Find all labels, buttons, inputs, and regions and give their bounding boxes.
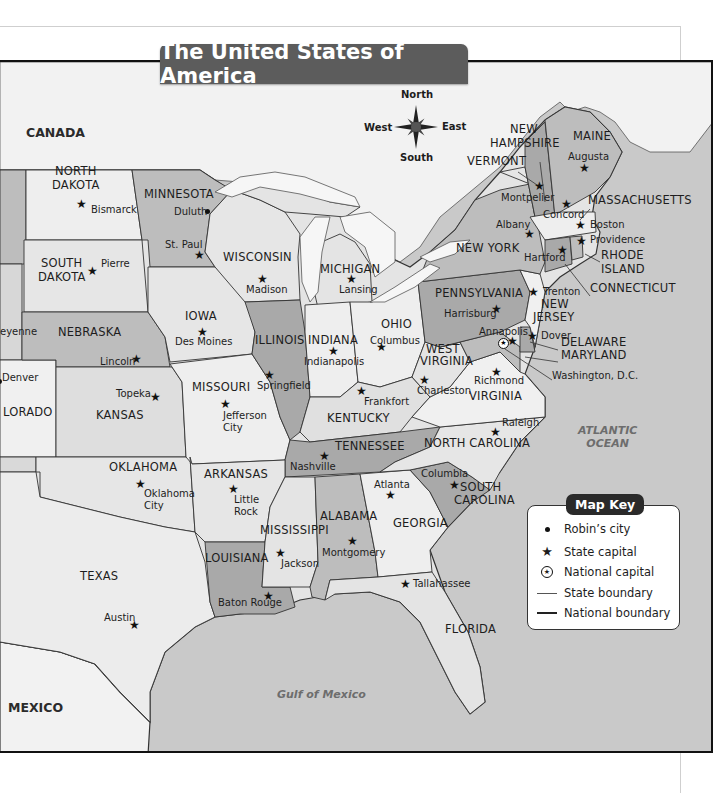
state-capital-star-icon: ★ [575,219,586,231]
state-label: ARKANSAS [204,469,268,481]
state-capital-star-icon: ★ [220,398,231,410]
city-label: City [144,501,164,511]
compass-south: South [400,152,433,163]
state-label: MASSACHUSETTS [588,195,692,207]
state-capital-star-icon: ★ [129,619,140,631]
state-label: IOWA [185,311,217,323]
state-capital-star-icon: ★ [527,330,538,342]
state-capital-star-icon: ★ [131,353,142,365]
state-capital-star-icon: ★ [528,286,539,298]
map-key-item-state-capital: ★ State capital [536,544,637,559]
state-label: LOUISIANA [205,553,269,565]
city-label: City [223,423,243,433]
state-capital-star-icon: ★ [400,578,411,590]
star-icon: ★ [536,544,558,559]
national-capital-icon: ★ [498,338,509,349]
state-capital-star-icon: ★ [534,180,545,192]
state-label: NEBRASKA [58,327,121,339]
compass-star-icon [392,103,440,151]
state-capital-star-icon: ★ [135,478,146,490]
city-label: Madison [246,285,288,295]
city-label: Little [234,495,259,505]
state-capital-star-icon: ★ [263,590,274,602]
city-label: Oklahoma [144,489,195,499]
state-label: CONNECTICUT [590,283,676,295]
city-label: Nashville [290,462,336,472]
state-label: MINNESOTA [144,189,214,201]
city-label: Annapolis [479,327,528,337]
city-label: Duluth [174,207,207,217]
map-key-title: Map Key [566,494,644,515]
thin-line-icon [536,593,558,594]
state-label: GEORGIA [393,518,448,530]
map-key-item-state-boundary: State boundary [536,586,653,600]
state-label: TENNESSEE [335,441,405,453]
nebraska [22,312,170,367]
compass-east: East [442,121,466,132]
state-label: ILLINOIS [255,335,305,347]
state-label: OHIO [381,319,412,331]
state-label: TEXAS [80,571,118,583]
map-key-item-national-boundary: National boundary [536,606,670,620]
thick-line-icon [536,612,558,614]
city-label: Jefferson [223,411,267,421]
state-label: CAROLINA [454,495,515,507]
state-label: VIRGINIA [469,391,522,403]
state-capital-star-icon: ★ [319,450,330,462]
city-label: Frankfort [364,397,409,407]
state-label: DAKOTA [38,272,86,284]
state-label: SOUTH [41,258,82,270]
state-capital-star-icon: ★ [275,547,286,559]
city-label: Jackson [281,559,319,569]
state-capital-star-icon: ★ [561,198,572,210]
state-label: JERSEY [533,312,574,324]
state-label: VERMONT [467,156,526,168]
city-label: Montpelier [501,193,554,203]
state-label: FLORIDA [445,624,496,636]
country-label-canada: CANADA [26,127,85,140]
state-label: MISSISSIPPI [260,525,329,537]
map-key-label: National boundary [564,606,670,620]
state-capital-star-icon: ★ [385,489,396,501]
state-capital-star-icon: ★ [419,374,430,386]
new-mexico-edge [0,457,36,472]
state-capital-star-icon: ★ [524,228,535,240]
city-label: Pierre [101,259,130,269]
state-label: MISSOURI [192,382,250,394]
city-label: Denver [2,373,38,383]
state-capital-star-icon: ★ [87,265,98,277]
map-key-label: State boundary [564,586,653,600]
city-label: Lansing [339,285,378,295]
city-label: Providence [590,235,645,245]
city-label: Dover [541,331,571,341]
city-label: Washington, D.C. [552,371,638,381]
ocean-label-line: OCEAN [578,438,637,451]
state-label: HAMPSHIRE [490,138,560,150]
state-capital-star-icon: ★ [579,162,590,174]
state-label: ALABAMA [320,511,377,523]
city-label: Tallahassee [413,579,470,589]
city-label: Trenton [543,287,580,297]
state-capital-star-icon: ★ [346,273,357,285]
ocean-label-atlantic: ATLANTIC OCEAN [578,425,637,450]
state-capital-star-icon: ★ [491,303,502,315]
city-label: Indianapolis [304,357,364,367]
map-title-banner: The United States of America [160,44,468,84]
state-label: RHODE [601,250,644,262]
state-label: MARYLAND [561,350,627,362]
map-key-item-robins-city: Robin’s city [536,522,630,536]
state-label: LORADO [3,407,53,419]
state-label: VIRGINIA [420,356,473,368]
city-label: Rock [234,507,258,517]
city-label: Topeka [116,389,151,399]
state-label: OKLAHOMA [109,462,177,474]
state-capital-star-icon: ★ [376,341,387,353]
state-capital-star-icon: ★ [490,426,501,438]
city-label: Columbia [421,469,468,479]
state-label: NEW YORK [456,243,519,255]
state-capital-star-icon: ★ [347,535,358,547]
city-label: Charleston [417,386,471,396]
state-capital-star-icon: ★ [449,479,460,491]
state-label: PENNSYLVANIA [435,288,523,300]
city-label: Harrisburg [444,309,497,319]
